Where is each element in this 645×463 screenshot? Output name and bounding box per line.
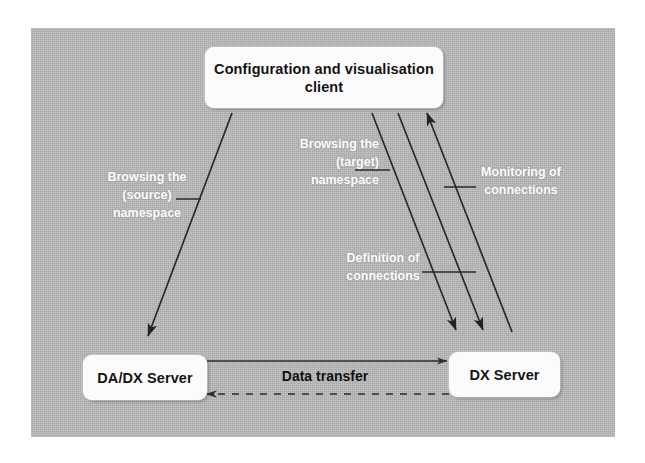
edge-label-browsing-target-namespace: Browsing the (target) namespace [243,135,379,189]
diagram-canvas: Configuration and visualisation client D… [0,0,645,463]
node-dx-server[interactable]: DX Server [449,352,560,397]
edge-label-data-transfer: Data transfer [255,368,395,384]
edge-label-monitoring-of-connections: Monitoring of connections [462,163,580,199]
edge-label-definition-of-connections: Definition of connections [322,249,444,285]
edge-label-browsing-source-namespace: Browsing the (source) namespace [88,168,206,222]
edge-client-to-dx-browse [372,113,456,330]
edge-dx-to-client-monitoring [427,113,512,332]
node-da-dx-server[interactable]: DA/DX Server [83,355,207,400]
edge-client-to-dadx [148,113,232,336]
node-configuration-visualisation-client[interactable]: Configuration and visualisation client [205,47,443,108]
